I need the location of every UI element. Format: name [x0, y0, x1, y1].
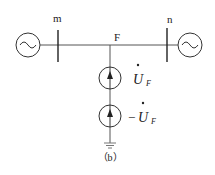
source2-prefix: −	[128, 110, 135, 125]
voltage-source-2-icon	[99, 105, 121, 127]
voltage-source-1-icon	[99, 67, 121, 89]
bus-n-label: n	[167, 13, 173, 25]
circuit-diagram: m n F U F − U F （b）	[0, 0, 215, 175]
caption: （b）	[98, 152, 123, 163]
source1-subscript: F	[145, 79, 151, 88]
generator-right-icon	[178, 33, 202, 57]
ground-icon	[104, 143, 116, 148]
bus-m-label: m	[53, 12, 62, 24]
fault-label: F	[114, 31, 120, 43]
source2-subscript: F	[150, 117, 156, 126]
source2-label: U	[138, 110, 149, 125]
source1-label: U	[133, 72, 144, 87]
generator-left-icon	[16, 33, 40, 57]
